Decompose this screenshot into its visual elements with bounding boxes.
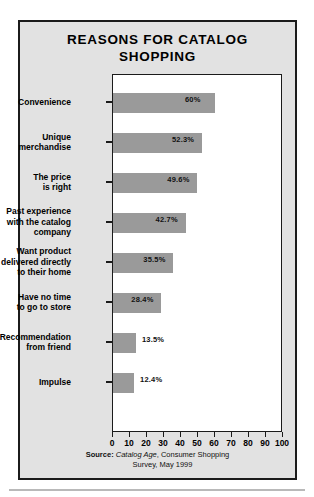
x-axis-tick-label: 60 <box>209 438 218 448</box>
category-label: Uniquemerchandise <box>0 132 71 153</box>
category-label-line: to go to store <box>0 302 71 313</box>
bar-row: 13.5% <box>113 323 281 363</box>
source-rest: , Consumer Shopping <box>157 450 230 459</box>
x-axis-tick <box>129 432 130 437</box>
chart-title-line-2: SHOPPING <box>20 48 295 65</box>
x-axis-tick-label: 30 <box>158 438 167 448</box>
bar-value-label: 28.4% <box>131 295 153 304</box>
x-axis-tick-label: 70 <box>226 438 235 448</box>
category-label-line: Want product <box>0 246 71 257</box>
category-label-line: from friend <box>0 342 71 353</box>
bar-row: 52.3% <box>113 123 281 163</box>
category-label-line: Convenience <box>0 97 71 108</box>
x-axis-tick <box>231 432 232 437</box>
bar-value-label: 52.3% <box>172 135 194 144</box>
category-label-line: to their home <box>0 267 71 278</box>
x-axis-tick <box>146 432 147 437</box>
source-publication: Catalog Age <box>116 450 157 459</box>
category-label-line: with the catalog <box>0 217 71 228</box>
category-label-line: Recommendation <box>0 332 71 343</box>
category-label-line: Unique <box>0 132 71 143</box>
bars-layer: 60%52.3%49.6%42.7%35.5%28.4%13.5%12.4% <box>113 75 281 431</box>
x-axis-tick-label: 40 <box>175 438 184 448</box>
bar-value-label: 42.7% <box>156 215 178 224</box>
category-label: Impulse <box>0 377 71 388</box>
x-axis-tick <box>248 432 249 437</box>
x-axis-tick-label: 20 <box>141 438 150 448</box>
x-axis-tick <box>163 432 164 437</box>
source-label: Source: <box>86 450 114 459</box>
x-axis-tick-label: 90 <box>260 438 269 448</box>
category-label-line: Have no time <box>0 292 71 303</box>
source-line-2: Survey, May 1999 <box>20 460 295 470</box>
bar-value-label: 13.5% <box>142 335 164 344</box>
bar-row: 49.6% <box>113 163 281 203</box>
category-label-line: Impulse <box>0 377 71 388</box>
category-label-line: The price <box>0 172 71 183</box>
bar-row: 35.5% <box>113 243 281 283</box>
bar <box>113 333 136 353</box>
x-axis-tick <box>282 432 283 437</box>
bar-row: 12.4% <box>113 363 281 403</box>
category-label: Want productdelivered directlyto their h… <box>0 246 71 278</box>
x-axis-tick <box>180 432 181 437</box>
x-axis-tick <box>197 432 198 437</box>
bar-row: 60% <box>113 83 281 123</box>
x-axis-tick <box>112 432 113 437</box>
x-axis-tick-label: 10 <box>124 438 133 448</box>
source-note: Source: Catalog Age, Consumer Shopping S… <box>20 450 295 470</box>
category-label-line: company <box>0 227 71 238</box>
bar-row: 28.4% <box>113 283 281 323</box>
category-label: Convenience <box>0 97 71 108</box>
x-axis-tick-label: 50 <box>192 438 201 448</box>
x-axis-tick-label: 100 <box>275 438 289 448</box>
x-axis-tick-label: 80 <box>243 438 252 448</box>
bar-value-label: 60% <box>185 95 201 104</box>
x-axis-tick-label: 0 <box>110 438 115 448</box>
chart-title: REASONS FOR CATALOG SHOPPING <box>20 31 295 65</box>
chart-title-line-1: REASONS FOR CATALOG <box>20 31 295 48</box>
bar-value-label: 12.4% <box>140 375 162 384</box>
bar <box>113 373 134 393</box>
category-label: Recommendationfrom friend <box>0 332 71 353</box>
x-axis-tick <box>265 432 266 437</box>
category-label: Have no timeto go to store <box>0 292 71 313</box>
bottom-divider <box>9 489 305 491</box>
chart-panel: REASONS FOR CATALOG SHOPPING Convenience… <box>18 20 297 480</box>
bar-value-label: 49.6% <box>167 175 189 184</box>
plot-area: 60%52.3%49.6%42.7%35.5%28.4%13.5%12.4% <box>112 74 282 432</box>
category-label-line: Past experience <box>0 206 71 217</box>
category-label-line: merchandise <box>0 142 71 153</box>
bar-value-label: 35.5% <box>143 255 165 264</box>
category-label: The priceis right <box>0 172 71 193</box>
category-label-line: delivered directly <box>0 257 71 268</box>
category-label-line: is right <box>0 182 71 193</box>
x-axis-tick <box>214 432 215 437</box>
category-label: Past experiencewith the catalogcompany <box>0 206 71 238</box>
bar-row: 42.7% <box>113 203 281 243</box>
